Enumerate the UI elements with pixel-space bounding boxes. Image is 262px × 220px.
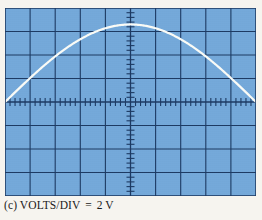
caption-part-label: (c) [4,199,17,211]
caption-equals-sign: = [83,199,94,211]
oscilloscope-display-figure: (c) VOLTS/DIV = 2 V [0,0,262,220]
caption-setting-value: 2 V [97,199,114,211]
caption-setting-name: VOLTS/DIV [20,199,80,211]
oscilloscope-graticule [5,8,256,196]
graticule-svg [5,8,256,196]
figure-caption: (c) VOLTS/DIV = 2 V [4,199,258,211]
